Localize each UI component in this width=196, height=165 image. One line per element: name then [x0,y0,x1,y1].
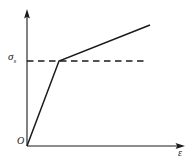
y-axis [24,9,30,146]
origin-label: O [17,136,24,146]
stress-strain-figure: σs O ε [0,0,196,165]
strain-axis-label: ε [178,148,182,158]
yield-stress-label: σs [8,51,16,65]
x-axis [27,143,185,149]
stress-strain-curve [27,25,150,146]
stress-strain-chart-canvas [0,0,196,165]
sigma-subscript: s [13,57,16,65]
